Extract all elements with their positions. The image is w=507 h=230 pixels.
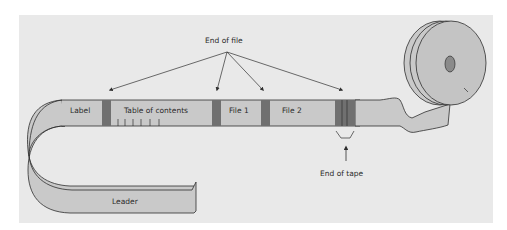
eot-marker [335,100,355,126]
segment-table-of-contents: Table of contents [123,106,188,115]
tape-diagram: Label Table of contents File 1 File 2 Le… [0,0,507,230]
end-of-tape-label: End of tape [320,169,364,178]
segment-file2: File 2 [282,106,302,115]
eof-marker-3 [261,100,270,126]
reel-hub [445,56,455,72]
tape-reel [404,21,486,105]
end-of-file-label: End of file [205,36,243,45]
segment-label: Label [70,106,90,115]
eof-marker-2 [212,100,221,126]
eof-marker-1 [102,100,111,126]
segment-leader: Leader [112,197,139,206]
segment-file1: File 1 [229,106,249,115]
